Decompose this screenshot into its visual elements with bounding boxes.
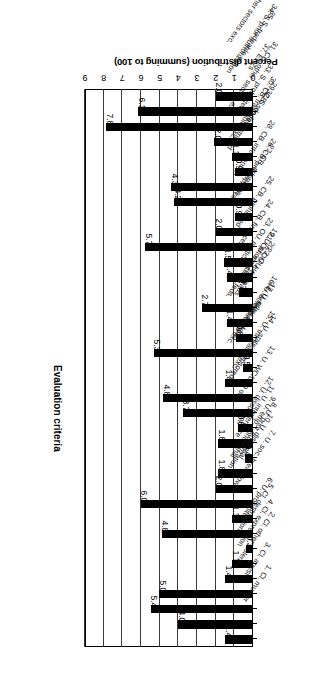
category-tick (253, 277, 257, 278)
chart-canvas: 0123456789 1.484.005.485.031.481.110.374… (0, 0, 309, 695)
bar-row (85, 168, 293, 176)
bar-row (85, 635, 293, 643)
category-tick (253, 186, 257, 187)
category-tick (253, 111, 257, 112)
value-tick-label: 9 (82, 73, 87, 82)
category-tick (253, 367, 257, 368)
category-tick (253, 578, 257, 579)
category-tick (253, 548, 257, 549)
category-tick (253, 246, 257, 247)
category-tick (253, 458, 257, 459)
value-tick-label: 3 (194, 73, 199, 82)
category-axis-title: Evaluation criteria (52, 365, 63, 452)
category-tick (253, 216, 257, 217)
category-tick (253, 503, 257, 504)
category-tick (253, 442, 257, 443)
bar-row (85, 273, 293, 281)
category-tick (253, 201, 257, 202)
category-tick (253, 292, 257, 293)
category-tick (253, 427, 257, 428)
value-tick-label: 1 (232, 73, 237, 82)
value-tick-label: 8 (101, 73, 106, 82)
category-tick (253, 171, 257, 172)
bar-chart: 0123456789 1.484.005.485.031.481.110.374… (85, 67, 293, 647)
category-tick (253, 307, 257, 308)
bar (159, 590, 253, 598)
category-tick (253, 337, 257, 338)
category-tick (253, 623, 257, 624)
category-tick (253, 141, 257, 142)
category-tick (253, 261, 257, 262)
value-tick-label: 2 (213, 73, 218, 82)
value-tick-label: 4 (176, 73, 181, 82)
category-tick (253, 563, 257, 564)
value-tick-label: 5 (157, 73, 162, 82)
bar-value-label: 2.00 (214, 83, 223, 100)
bar (141, 500, 253, 508)
category-tick (253, 608, 257, 609)
bar-row (85, 590, 293, 598)
bar (151, 605, 253, 613)
category-tick (253, 322, 257, 323)
category-tick (253, 638, 257, 639)
category-tick (253, 518, 257, 519)
bar-row (85, 620, 293, 628)
category-tick (253, 397, 257, 398)
category-tick (253, 126, 257, 127)
bar-row (85, 605, 293, 613)
value-tick-label: 6 (138, 73, 143, 82)
bar-row (85, 469, 293, 477)
bar (174, 198, 253, 206)
category-tick (253, 473, 257, 474)
category-tick (253, 352, 257, 353)
category-tick (253, 488, 257, 489)
category-tick (253, 96, 257, 97)
rotated-figure: 0123456789 1.484.005.485.031.481.110.374… (0, 0, 309, 695)
category-tick (253, 533, 257, 534)
bar (138, 108, 253, 116)
category-tick (253, 231, 257, 232)
value-axis-title: Percent distribution (summing to 100) (91, 57, 301, 68)
category-tick (253, 593, 257, 594)
category-tick (253, 382, 257, 383)
bar (178, 620, 253, 628)
value-tick-label: 7 (120, 73, 125, 82)
category-tick (253, 156, 257, 157)
category-tick (253, 412, 257, 413)
